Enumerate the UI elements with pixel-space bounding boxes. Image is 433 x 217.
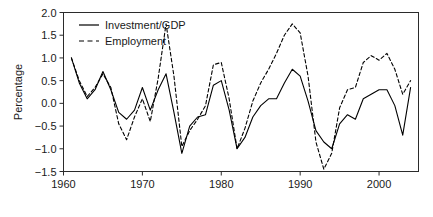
y-tick-label: 2.0 <box>41 7 56 19</box>
y-tick-label: 1.0 <box>41 52 56 64</box>
x-tick-label: 2000 <box>367 178 391 190</box>
legend-label-employment: Employment <box>105 35 166 47</box>
y-axis-title: Percentage <box>12 64 24 120</box>
legend-label-investment-gdp: Investment/GDP <box>105 19 186 31</box>
chart-figure: −1.5−1.0−0.50.00.51.01.52.0 196019701980… <box>0 0 433 217</box>
x-tick-label: 1990 <box>288 178 312 190</box>
line-chart-svg: −1.5−1.0−0.50.00.51.01.52.0 196019701980… <box>0 0 433 217</box>
y-tick-label: −0.5 <box>35 120 57 132</box>
y-tick-label: 0.0 <box>41 97 56 109</box>
y-tick-label: −1.0 <box>35 143 57 155</box>
x-tick-label: 1980 <box>209 178 233 190</box>
y-tick-label: −1.5 <box>35 166 57 178</box>
y-tick-label: 0.5 <box>41 75 56 87</box>
y-tick-label: 1.5 <box>41 29 56 41</box>
x-tick-label: 1970 <box>130 178 154 190</box>
x-tick-label: 1960 <box>51 178 75 190</box>
